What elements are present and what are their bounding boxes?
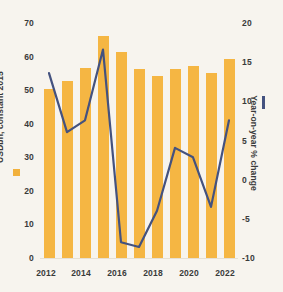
y2-axis-tick-20: 20: [242, 18, 266, 28]
y2-axis-tick-neg5: -5: [242, 214, 266, 224]
chart-container: 70 60 50 40 30 20 10 0 20 15 10 5 0 -5 -…: [0, 0, 283, 292]
y-axis-tick-50: 50: [12, 85, 34, 95]
legend-swatch-line: [262, 96, 265, 109]
x-axis-tick-2012: 2012: [29, 268, 63, 278]
legend-swatch-bars: [13, 169, 20, 176]
yoy-line: [49, 50, 229, 247]
y-axis-tick-70: 70: [12, 18, 34, 28]
plot-area: [40, 22, 238, 258]
y-axis-title: USDbn, constant 2015: [0, 71, 5, 163]
y-axis-tick-0: 0: [12, 253, 34, 263]
x-axis-tick-2018: 2018: [136, 268, 170, 278]
x-axis-tick-2020: 2020: [172, 268, 206, 278]
y-axis-tick-40: 40: [12, 119, 34, 129]
y-axis-tick-60: 60: [12, 52, 34, 62]
y2-axis-title: Year-on-year % change: [249, 95, 259, 191]
x-axis-tick-2022: 2022: [208, 268, 242, 278]
y-axis-tick-10: 10: [12, 219, 34, 229]
baseline-gridline: [40, 258, 238, 259]
y-axis-tick-30: 30: [12, 152, 34, 162]
line-series: [40, 22, 238, 258]
y2-axis-tick-15: 15: [242, 57, 266, 67]
x-axis-tick-2016: 2016: [100, 268, 134, 278]
x-axis-tick-2014: 2014: [64, 268, 98, 278]
y2-axis-tick-neg10: -10: [242, 253, 266, 263]
y-axis-tick-20: 20: [12, 186, 34, 196]
